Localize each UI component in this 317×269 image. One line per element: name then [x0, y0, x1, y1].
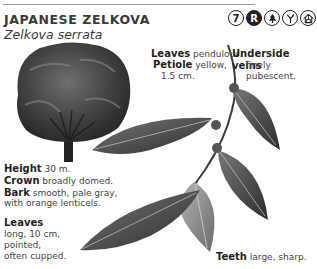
height-label: Height 30 m.	[4, 163, 70, 175]
bark-line2: with orange lenticels.	[4, 198, 101, 209]
petiole-length: 1.5 cm.	[161, 71, 195, 82]
leaves-shape-line3: often cupped.	[4, 251, 66, 262]
leaves-shape-line1: long, 10 cm,	[4, 229, 60, 240]
teeth-label: Teeth large, sharp.	[216, 251, 307, 263]
leaves-shape-line2: pointed,	[4, 240, 41, 251]
leaves-shape-term: Leaves	[4, 217, 43, 229]
crown-label: Crown broadly domed.	[4, 175, 113, 187]
underside-veins-text: finely pubescent.	[246, 60, 317, 82]
petiole-label: Petiole yellow,	[153, 59, 227, 71]
